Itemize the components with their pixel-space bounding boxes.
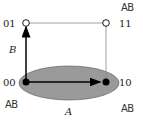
- handwritten-label-bottom-right: AB: [121, 104, 134, 114]
- axis-label-a: A: [65, 107, 72, 117]
- node-label-11: 11: [119, 19, 132, 29]
- axis-label-b: B: [9, 45, 16, 55]
- node-label-01: 01: [3, 19, 16, 29]
- node-10: [103, 79, 110, 86]
- node-11: [103, 20, 110, 27]
- node-01: [23, 20, 30, 27]
- handwritten-label-top-right: AB: [121, 3, 134, 13]
- node-label-10: 10: [119, 78, 132, 88]
- node-label-00: 00: [3, 78, 16, 88]
- handwritten-label-bottom-left: AB: [5, 100, 18, 110]
- node-00: [23, 79, 30, 86]
